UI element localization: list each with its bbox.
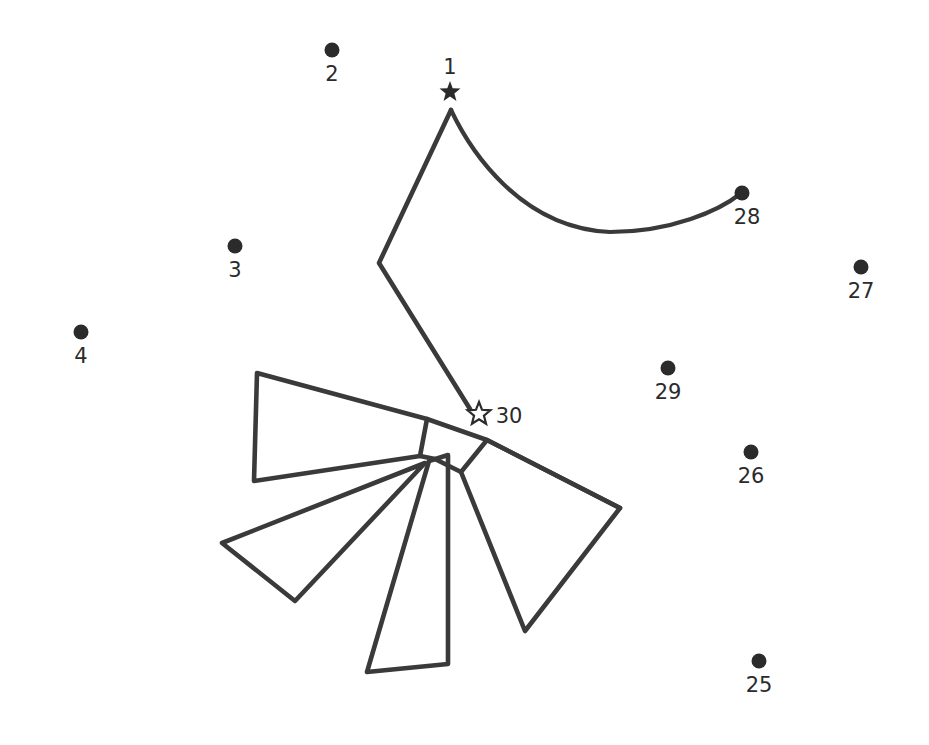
dot-marker-25[interactable] <box>752 654 767 669</box>
connect-the-dots-drawing: 1234252627282930 <box>0 0 929 745</box>
markers-layer: 1234252627282930 <box>74 43 875 698</box>
start-star-icon[interactable] <box>440 81 461 101</box>
dot-label-26: 26 <box>738 464 765 488</box>
marker-26[interactable]: 26 <box>738 445 765 489</box>
dot-marker-27[interactable] <box>854 260 869 275</box>
marker-27[interactable]: 27 <box>848 260 875 304</box>
dot-marker-2[interactable] <box>325 43 340 58</box>
dot-marker-4[interactable] <box>74 325 89 340</box>
marker-4[interactable]: 4 <box>74 325 89 369</box>
dot-marker-28[interactable] <box>735 186 750 201</box>
marker-30[interactable]: 30 <box>468 402 523 428</box>
dot-marker-3[interactable] <box>228 239 243 254</box>
dot-marker-29[interactable] <box>661 361 676 376</box>
dot-label-28: 28 <box>734 205 761 229</box>
head-curve-path <box>451 110 740 232</box>
end-star-icon[interactable] <box>468 402 491 424</box>
dot-label-29: 29 <box>655 380 682 404</box>
dot-marker-26[interactable] <box>744 445 759 460</box>
marker-25[interactable]: 25 <box>746 654 773 698</box>
dot-label-4: 4 <box>74 344 87 368</box>
dot-label-1: 1 <box>443 55 456 79</box>
marker-2[interactable]: 2 <box>325 43 340 87</box>
marker-3[interactable]: 3 <box>228 239 243 283</box>
dot-label-27: 27 <box>848 279 875 303</box>
wing-lower-center-path <box>367 455 448 672</box>
neck-polyline-path <box>379 110 470 409</box>
wing-upper-left-path <box>254 373 427 481</box>
spine-right-path <box>427 419 620 508</box>
dot-label-3: 3 <box>228 258 241 282</box>
puzzle-canvas: 1234252627282930 <box>0 0 929 745</box>
marker-29[interactable]: 29 <box>655 361 682 405</box>
dot-label-2: 2 <box>325 62 338 86</box>
dot-label-30: 30 <box>496 404 523 428</box>
marker-1[interactable]: 1 <box>440 55 461 101</box>
marker-28[interactable]: 28 <box>734 186 761 230</box>
dot-label-25: 25 <box>746 673 773 697</box>
